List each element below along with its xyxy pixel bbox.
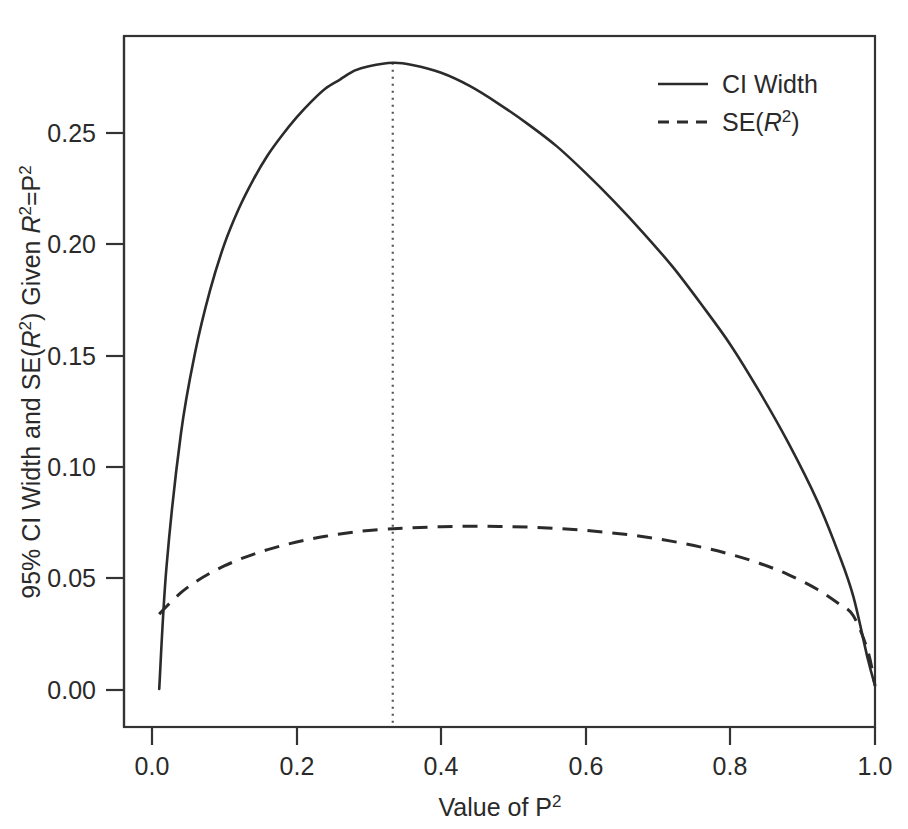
y-tick-marks bbox=[106, 133, 124, 690]
chart-figure: 0.0 0.2 0.4 0.6 0.8 1.0 0.00 0.05 0.10 0… bbox=[0, 0, 908, 829]
legend-se-suffix: ) bbox=[791, 108, 799, 136]
y-tick-label-4: 0.20 bbox=[47, 230, 96, 258]
y-axis-title: 95% CI Width and SE(R2) Given R2=P2 bbox=[16, 165, 45, 598]
legend-se-prefix: SE( bbox=[722, 108, 764, 136]
y-axis-title-italic-r-1: R bbox=[17, 331, 45, 349]
y-tick-label-5: 0.25 bbox=[47, 119, 96, 147]
y-tick-label-0: 0.00 bbox=[47, 676, 96, 704]
legend-se-italic-r: R bbox=[764, 108, 782, 136]
x-tick-marks bbox=[152, 727, 875, 745]
x-axis-title-prefix: Value of P bbox=[439, 793, 553, 821]
plot-frame bbox=[124, 36, 875, 727]
legend-label-ci-width: CI Width bbox=[722, 70, 818, 98]
x-tick-label-1: 0.2 bbox=[280, 752, 315, 780]
x-tick-label-5: 1.0 bbox=[858, 752, 893, 780]
series-line-ci-width bbox=[159, 63, 875, 689]
y-axis-title-sup-2: 2 bbox=[16, 206, 35, 215]
x-axis-title: Value of P2 bbox=[439, 792, 562, 821]
y-tick-label-2: 0.10 bbox=[47, 453, 96, 481]
y-axis-title-sup-3: 2 bbox=[16, 165, 35, 174]
x-tick-label-4: 0.8 bbox=[713, 752, 748, 780]
y-tick-label-3: 0.15 bbox=[47, 342, 96, 370]
series-line-se-r2 bbox=[159, 526, 875, 685]
y-axis-title-prefix: 95% CI Width and SE( bbox=[17, 348, 45, 599]
legend-se-superscript: 2 bbox=[782, 107, 791, 126]
x-tick-label-0: 0.0 bbox=[135, 752, 170, 780]
y-axis-title-mid: ) Given bbox=[17, 234, 45, 322]
legend-label-se-r2: SE(R2) bbox=[722, 107, 800, 136]
chart-canvas: 0.0 0.2 0.4 0.6 0.8 1.0 0.00 0.05 0.10 0… bbox=[0, 0, 908, 829]
chart-legend: CI Width SE(R2) bbox=[658, 70, 818, 136]
x-axis-title-superscript: 2 bbox=[552, 792, 561, 811]
x-tick-label-2: 0.4 bbox=[424, 752, 459, 780]
x-tick-label-3: 0.6 bbox=[569, 752, 604, 780]
y-tick-label-1: 0.05 bbox=[47, 564, 96, 592]
y-axis-title-eq: =P bbox=[17, 175, 45, 206]
y-axis-title-sup-1: 2 bbox=[16, 321, 35, 330]
y-axis-title-italic-r-2: R bbox=[17, 215, 45, 233]
